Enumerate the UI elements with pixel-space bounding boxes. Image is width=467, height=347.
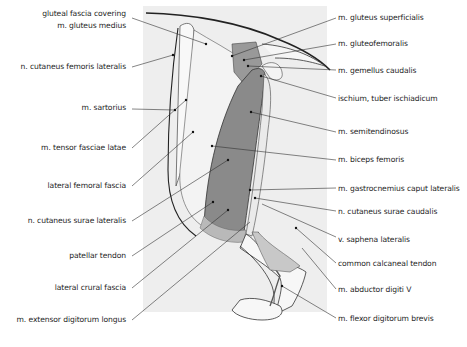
label-text: n. cutaneus surae caudalis [338, 207, 437, 217]
label-text: m. gluteus superficialis [338, 13, 424, 23]
label-text: n. cutaneus surae lateralis [28, 216, 126, 226]
label-text: m. abductor digiti V [338, 285, 411, 295]
anatomy-figure: gluteal fascia covering m. gluteus mediu… [0, 0, 467, 347]
label-text: v. saphena lateralis [338, 235, 410, 245]
label-text: ischium, tuber ischiadicum [338, 94, 438, 104]
label-text: m. gastrocnemius caput lateralis [338, 184, 460, 194]
label-text: m. gemellus caudalis [338, 66, 416, 76]
label-text: m. extensor digitorum longus [17, 315, 126, 325]
label-text: lateral crural fascia [55, 283, 126, 293]
label-text: m. semitendinosus [338, 127, 408, 137]
label-line: gluteal fascia covering [42, 9, 126, 19]
label-text: m. flexor digitorum brevis [338, 314, 434, 324]
label-text: common calcaneal tendon [338, 259, 436, 269]
label-text: m. tensor fasciae latae [41, 143, 126, 153]
paw [232, 298, 282, 320]
label-text: m. sartorius [82, 103, 126, 113]
label-line: m. gluteus medius [57, 21, 126, 31]
label-text: lateral femoral fascia [48, 181, 126, 191]
label-text: m. gluteofemoralis [338, 39, 408, 49]
label-text: n. cutaneus femoris lateralis [21, 62, 126, 72]
label-text: m. biceps femoris [338, 155, 404, 165]
label-text: patellar tendon [69, 251, 126, 261]
